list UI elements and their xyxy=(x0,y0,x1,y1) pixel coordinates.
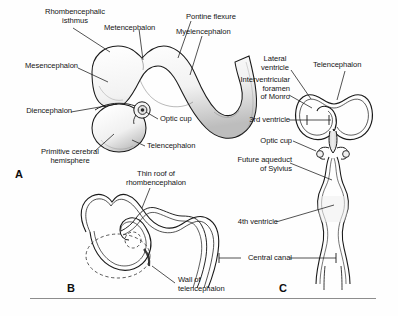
label-future-aqueduct-of-sylvius: Future aqueduct of Sylvius xyxy=(218,156,292,173)
label-optic-cup-a: Optic cup xyxy=(160,115,192,124)
label-metencephalon: Metencephalon xyxy=(104,24,155,33)
fourth-ventricle-highlight xyxy=(318,196,347,222)
label-interventricular-foramen-of-monro: Interventricular foramen of Monro xyxy=(232,76,290,102)
panel-letter-c: C xyxy=(279,282,287,294)
label-optic-cup-c: Optic cup xyxy=(234,137,292,146)
panel-letter-b: B xyxy=(67,282,75,294)
label-mesencephalon: Mesencephalon xyxy=(0,62,78,71)
label-central-canal: Central canal xyxy=(228,254,292,263)
label-myelencephalon: Myelencephalon xyxy=(176,28,231,37)
third-ventricle xyxy=(329,131,337,153)
label-wall-of-telencephalon: Wall of telencephalon xyxy=(178,276,225,293)
label-third-ventricle: 3rd ventricle xyxy=(228,116,290,125)
lateral-ventricle-left-inner xyxy=(300,99,333,135)
lateral-ventricle-right-inner xyxy=(337,99,368,135)
neural-tube-outer-wall xyxy=(81,194,219,288)
label-lateral-ventricle: Lateral ventricle xyxy=(249,55,301,72)
label-primitive-cerebral-hemisphere: Primitive cerebral hemisphere xyxy=(24,148,116,165)
telencephalon-wall xyxy=(90,218,151,271)
central-canal-mirror xyxy=(341,266,342,290)
panel-letter-a: A xyxy=(15,168,23,180)
label-pontine-flexure: Pontine flexure xyxy=(186,13,236,22)
central-canal xyxy=(324,266,325,290)
figure-container: Rhombencephalic isthmus Metencephalon Po… xyxy=(0,0,398,316)
panel-b-leader-lines xyxy=(142,188,175,283)
label-telencephalon-c: Telencephalon xyxy=(313,61,361,70)
label-telencephalon-a: Telencephalon xyxy=(147,142,195,151)
panel-a-artwork xyxy=(71,21,256,152)
lateral-ventricle-right xyxy=(333,95,372,140)
label-thin-roof-of-rhombencephalon: Thin roof of rhombencephalon xyxy=(108,170,204,187)
developing-hemisphere-dashed xyxy=(86,234,150,278)
label-fourth-ventricle: 4th ventricle xyxy=(222,218,278,227)
panel-b-artwork xyxy=(81,188,219,288)
label-diencephalon: Diencephalon xyxy=(0,107,72,116)
